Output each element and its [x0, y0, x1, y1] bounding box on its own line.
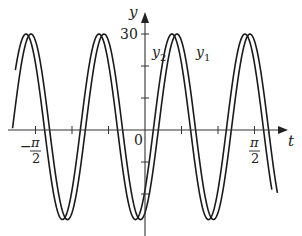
legend-label-y1: y 1: [195, 44, 210, 63]
x-axis-arrow-icon: [278, 126, 288, 134]
legend-label-y2: y 2: [151, 44, 166, 63]
svg-text:2: 2: [251, 151, 259, 166]
svg-text:2: 2: [160, 52, 166, 63]
origin-label: 0: [134, 132, 143, 148]
x-tick-label-neg-pi-half: − π 2: [20, 135, 41, 166]
chart-canvas: y 30 t 0 − π 2 π 2 y 2 y 1: [0, 0, 302, 236]
svg-text:2: 2: [32, 151, 40, 166]
svg-text:π: π: [249, 135, 259, 150]
x-axis-label: t: [288, 132, 295, 150]
y-axis-label: y: [128, 3, 138, 21]
svg-text:1: 1: [204, 52, 210, 63]
svg-text:π: π: [30, 135, 40, 150]
x-tick-label-pi-half: π 2: [249, 135, 260, 166]
svg-text:−: −: [20, 138, 32, 154]
y-tick-label-30: 30: [120, 26, 138, 42]
y-axis-arrow-icon: [141, 12, 149, 23]
curve-y2: [15, 34, 271, 220]
